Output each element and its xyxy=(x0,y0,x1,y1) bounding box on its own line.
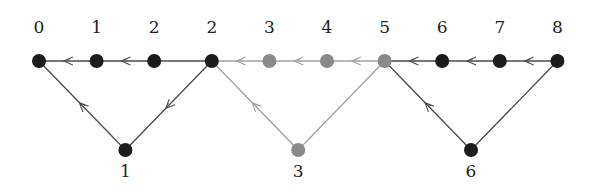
node-t5 xyxy=(320,54,334,68)
node-label-t6: 5 xyxy=(379,17,390,37)
node-label-t0: 0 xyxy=(34,17,45,37)
tree-diagram: 0122345678136 xyxy=(0,0,597,194)
node-label-t2: 2 xyxy=(149,17,160,37)
node-t0 xyxy=(32,54,46,68)
edge-t3-b1 xyxy=(125,61,211,150)
node-label-t8: 7 xyxy=(494,17,505,37)
edge-b6-t6 xyxy=(385,61,471,150)
node-t1 xyxy=(90,54,104,68)
edge-t6-b3 xyxy=(298,61,384,150)
node-t6 xyxy=(378,54,392,68)
node-label-t5: 4 xyxy=(322,17,333,37)
node-label-t4: 3 xyxy=(264,17,275,37)
node-label-b6: 6 xyxy=(466,161,477,181)
edges-layer xyxy=(39,61,557,150)
node-b6 xyxy=(464,143,478,157)
node-label-t9: 8 xyxy=(552,17,563,37)
nodes-layer xyxy=(32,54,564,157)
node-label-b3: 3 xyxy=(293,161,304,181)
node-t3 xyxy=(205,54,219,68)
node-t9 xyxy=(550,54,564,68)
edge-b1-t0 xyxy=(39,61,125,150)
node-t8 xyxy=(493,54,507,68)
node-t2 xyxy=(147,54,161,68)
node-label-b1: 1 xyxy=(120,161,131,181)
edge-b3-t3 xyxy=(212,61,298,150)
node-label-t1: 1 xyxy=(91,17,102,37)
node-t7 xyxy=(435,54,449,68)
node-label-t7: 6 xyxy=(437,17,448,37)
arrows-layer xyxy=(64,57,534,112)
node-t4 xyxy=(262,54,276,68)
edge-t9-b6 xyxy=(471,61,557,150)
node-b1 xyxy=(118,143,132,157)
node-label-t3: 2 xyxy=(206,17,217,37)
node-b3 xyxy=(291,143,305,157)
